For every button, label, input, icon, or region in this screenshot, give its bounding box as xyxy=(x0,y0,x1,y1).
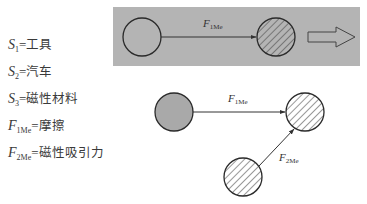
force-f2me-label: F2Me xyxy=(278,151,299,165)
top-panel: F1Me xyxy=(113,7,360,66)
force-f1me-label: F1Me xyxy=(227,92,248,106)
diagram-canvas: F1Me F1Me F2Me xyxy=(0,0,367,204)
magnetic-material-circle xyxy=(224,158,262,196)
tool-circle-filled xyxy=(155,93,193,131)
bottom-panel: F1Me F2Me xyxy=(155,92,324,196)
car-circle xyxy=(286,93,324,131)
material-circle xyxy=(257,18,295,56)
